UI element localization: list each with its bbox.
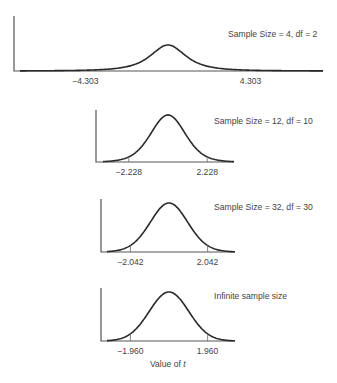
critical-value-label: 4.303 <box>240 76 262 86</box>
critical-value-label: −2.228 <box>116 167 143 177</box>
panel-title: Sample Size = 32, df = 30 <box>214 202 313 212</box>
t-distribution-figure: −4.3034.303Sample Size = 4, df = 2−2.228… <box>0 0 337 383</box>
critical-value-label: −4.303 <box>72 76 99 86</box>
chart-panel-4: −1.9601.960Infinite sample size <box>101 288 287 356</box>
panel-title: Sample Size = 12, df = 10 <box>214 116 313 126</box>
x-axis-label: Value of t <box>150 359 186 369</box>
chart-panel-3: −2.0422.042Sample Size = 32, df = 30 <box>101 199 313 267</box>
density-curve <box>20 45 323 71</box>
chart-panel-1: −4.3034.303Sample Size = 4, df = 2 <box>14 16 323 86</box>
critical-value-label: −2.042 <box>117 257 144 267</box>
critical-value-label: −1.960 <box>117 346 144 356</box>
critical-value-label: 2.042 <box>197 257 219 267</box>
panel-title: Infinite sample size <box>214 291 287 301</box>
critical-value-label: 2.228 <box>196 167 218 177</box>
axes <box>14 16 323 71</box>
panel-title: Sample Size = 4, df = 2 <box>228 29 318 39</box>
critical-value-label: 1.960 <box>197 346 219 356</box>
chart-panel-2: −2.2282.228Sample Size = 12, df = 10 <box>96 110 313 177</box>
